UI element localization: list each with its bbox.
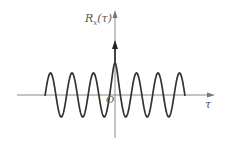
- impulse-arrow-icon: [112, 40, 118, 49]
- x-axis-arrow-icon: [207, 93, 215, 98]
- x-axis-label: τ: [205, 98, 212, 111]
- y-axis-label: Rx(τ): [84, 12, 112, 27]
- origin-label: O: [106, 94, 114, 105]
- y-axis-arrow-icon: [113, 10, 118, 18]
- autocorrelation-diagram: Rx(τ) τ O: [0, 0, 230, 150]
